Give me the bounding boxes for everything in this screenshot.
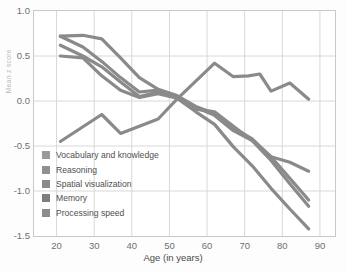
chart-figure: Mean z score -1.5-1.0-0.50.00.51.0 20304…	[0, 0, 346, 271]
legend-item[interactable]: Reasoning	[42, 162, 159, 176]
legend-swatch-icon	[42, 209, 50, 217]
x-tick-label: 70	[230, 240, 260, 251]
x-axis-title: Age (in years)	[0, 252, 346, 263]
legend-swatch-icon	[42, 151, 50, 159]
legend-label: Processing speed	[56, 208, 124, 218]
legend-label: Spatial visualization	[56, 179, 131, 189]
x-tick-label: 90	[305, 240, 335, 251]
legend-swatch-icon	[42, 166, 50, 174]
legend-label: Memory	[56, 193, 87, 203]
legend-label: Reasoning	[56, 165, 97, 175]
x-tick-label: 30	[79, 240, 109, 251]
legend-item[interactable]: Vocabulary and knowledge	[42, 148, 159, 162]
x-tick-label: 20	[42, 240, 72, 251]
legend-item[interactable]: Memory	[42, 191, 159, 205]
x-tick-label: 60	[192, 240, 222, 251]
x-tick-label: 50	[154, 240, 184, 251]
chart-legend: Vocabulary and knowledgeReasoningSpatial…	[42, 148, 159, 220]
legend-swatch-icon	[42, 180, 50, 188]
legend-label: Vocabulary and knowledge	[56, 150, 159, 160]
x-tick-label: 80	[267, 240, 297, 251]
legend-item[interactable]: Processing speed	[42, 206, 159, 220]
x-tick-label: 40	[117, 240, 147, 251]
legend-item[interactable]: Spatial visualization	[42, 177, 159, 191]
legend-swatch-icon	[42, 194, 50, 202]
